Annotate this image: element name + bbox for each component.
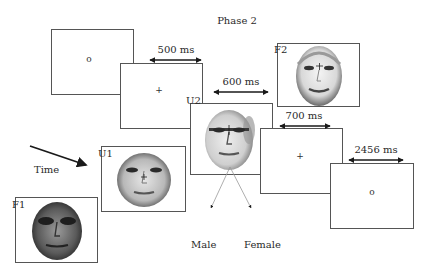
time-arrow	[30, 146, 86, 165]
arrows-overlay	[0, 0, 428, 275]
response-arrow-male	[211, 167, 230, 208]
response-arrow-female	[230, 167, 251, 208]
